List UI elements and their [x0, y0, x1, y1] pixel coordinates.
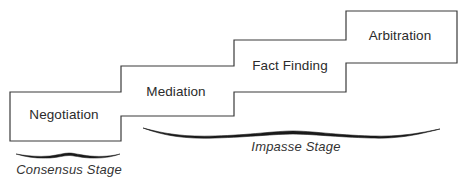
step-fact-finding-label: Fact Finding — [252, 58, 327, 73]
step-arbitration-label: Arbitration — [369, 28, 432, 43]
step-mediation-label: Mediation — [146, 84, 205, 99]
step-negotiation-label: Negotiation — [29, 107, 98, 122]
consensus-stage-label: Consensus Stage — [16, 162, 122, 177]
consensus-brace — [16, 153, 120, 158]
impasse-brace — [143, 128, 440, 138]
impasse-stage-label: Impasse Stage — [251, 139, 340, 154]
